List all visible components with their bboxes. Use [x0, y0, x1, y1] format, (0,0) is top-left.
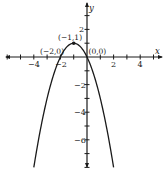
y-axis-label: y	[88, 3, 94, 13]
y-tick-label: −6	[74, 136, 86, 145]
left-root-label: (−2,0)	[40, 47, 64, 56]
parabola-graph: x y −4 −2 2 4 2 −2 −4 −6 (−1,1) (−2,0) (…	[0, 0, 166, 169]
x-axis	[5, 55, 163, 60]
x-axis-label: x	[155, 46, 160, 56]
y-tick-label: −2	[74, 81, 86, 90]
y-tick-label: −4	[74, 108, 86, 117]
x-tick-label: −4	[28, 60, 40, 69]
vertex-label: (−1,1)	[58, 33, 82, 42]
origin-label: (0,0)	[89, 47, 107, 56]
parabola-curve	[34, 43, 114, 167]
x-tick-label: 2	[111, 60, 116, 69]
x-tick-label: 4	[138, 60, 143, 69]
